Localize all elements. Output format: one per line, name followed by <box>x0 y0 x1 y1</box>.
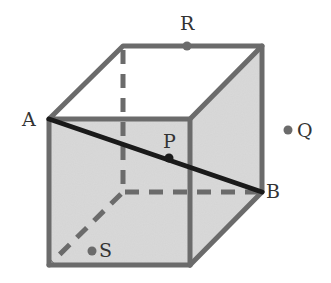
point-r <box>183 42 192 51</box>
label-q: Q <box>297 119 313 141</box>
cube-diagram: A B P Q R S <box>0 0 331 283</box>
label-s: S <box>99 239 112 261</box>
label-p: P <box>163 130 176 152</box>
point-q <box>284 126 293 135</box>
point-p <box>165 154 174 163</box>
label-b: B <box>266 180 280 202</box>
label-a: A <box>21 108 36 130</box>
label-r: R <box>180 12 195 34</box>
right-face <box>190 46 262 265</box>
point-s <box>88 247 97 256</box>
